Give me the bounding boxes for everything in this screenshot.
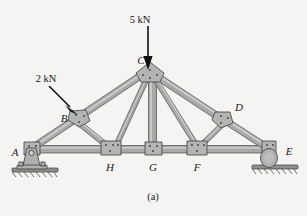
figure-caption: (a) <box>147 191 159 203</box>
load-labels: 5 kN 2 kN <box>36 14 151 84</box>
ground-right <box>252 165 298 174</box>
gusset-G <box>145 142 162 155</box>
truss-figure: 5 kN 2 kN A B C D E H G F (a) <box>0 0 307 216</box>
joint-label-D: D <box>234 101 243 113</box>
joint-label-B: B <box>61 112 68 124</box>
joint-label-C: C <box>137 54 145 66</box>
roller-support-E <box>261 149 278 168</box>
joint-label-F: F <box>193 161 201 173</box>
joint-label-E: E <box>285 145 293 157</box>
truss-svg: 5 kN 2 kN A B C D E H G F (a) <box>0 0 307 216</box>
joint-label-A: A <box>11 146 19 158</box>
gusset-F <box>187 141 207 155</box>
joint-label-G: G <box>149 161 157 173</box>
gusset-H <box>101 141 121 155</box>
load-label-5kn: 5 kN <box>130 14 151 25</box>
joint-label-H: H <box>105 161 115 173</box>
load-label-2kn: 2 kN <box>36 73 57 84</box>
